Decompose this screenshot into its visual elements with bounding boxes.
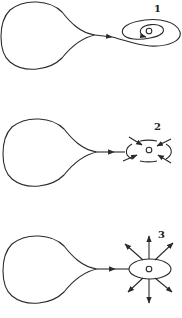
panel-label-1: 1 [154,3,161,14]
inflow-curve-1 [112,20,180,47]
outward-arrow-sw [128,278,143,292]
inward-arrow-ne [157,139,171,146]
ring-arc-left-2 [126,144,132,159]
panel-1: 1 [1,2,180,69]
source-ellipse-3 [129,259,171,279]
panel-label-3: 3 [158,229,165,240]
inward-arrow-sw [123,155,137,161]
ring-arc-right-2 [166,144,171,159]
loop-2 [3,119,97,186]
fixed-point-1 [146,28,152,34]
loop-3 [3,236,97,303]
diagram-canvas: 1 2 3 [0,0,182,318]
panel-2: 2 [3,119,171,186]
outward-arrow-se [155,278,172,292]
ring-arc-top-2 [140,140,157,141]
ring-arc-bottom-2 [140,161,157,162]
panel-label-2: 2 [154,121,161,132]
fixed-point-3 [146,266,152,272]
panel-3: 3 [3,229,173,303]
outward-arrow-nw [125,244,143,260]
loop-1 [1,2,95,69]
fixed-point-2 [146,147,152,153]
outward-arrow-ne [155,243,173,260]
flow-arrow-1 [95,35,112,37]
